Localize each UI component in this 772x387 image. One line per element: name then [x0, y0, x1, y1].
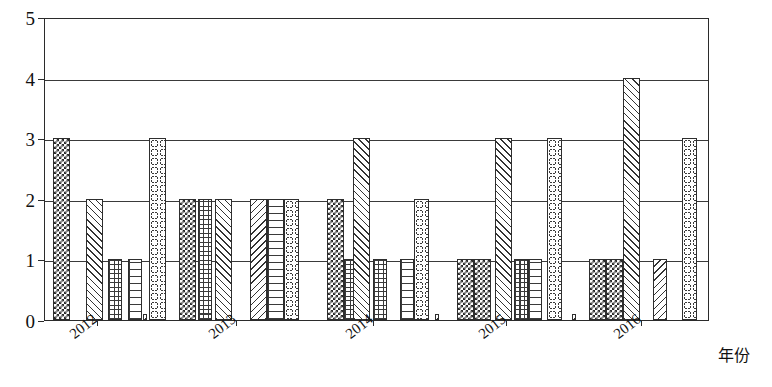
bar: [589, 259, 606, 320]
y-tick-label: 2: [9, 190, 35, 209]
bar: [653, 259, 667, 320]
bar: [149, 138, 166, 320]
bar: [108, 259, 122, 320]
bar: [435, 314, 439, 320]
y-axis: 012345: [0, 0, 44, 387]
bar: [267, 199, 284, 320]
y-tick-label: 1: [9, 251, 35, 270]
bar: [284, 199, 299, 320]
bar: [682, 138, 697, 320]
bar: [86, 199, 103, 320]
bar: [572, 314, 576, 320]
bar: [457, 259, 474, 320]
bar: [53, 138, 70, 320]
x-axis-title: 年份: [718, 348, 750, 364]
bars-layer: [45, 19, 708, 320]
bar: [250, 199, 267, 320]
y-tick-label: 4: [9, 69, 35, 88]
bar: [353, 138, 370, 320]
bar: [373, 259, 387, 320]
bar: [400, 259, 414, 320]
bar: [474, 259, 491, 320]
bar: [215, 199, 232, 320]
y-tick-label: 3: [9, 130, 35, 149]
y-tick-label: 5: [9, 9, 35, 28]
bar: [528, 259, 542, 320]
bar: [414, 199, 429, 320]
bar-chart: 012345 20122013201420152016 年份: [0, 0, 772, 387]
plot-area: [44, 18, 709, 321]
bar: [128, 259, 142, 320]
bar: [514, 259, 528, 320]
bar: [495, 138, 512, 320]
bar: [606, 259, 623, 320]
y-tick-mark: [38, 321, 44, 322]
bar: [547, 138, 562, 320]
y-tick-label: 0: [9, 312, 35, 331]
bar: [143, 314, 147, 320]
bar: [623, 78, 640, 320]
bar: [179, 199, 196, 320]
bar: [327, 199, 344, 320]
bar: [198, 199, 212, 320]
